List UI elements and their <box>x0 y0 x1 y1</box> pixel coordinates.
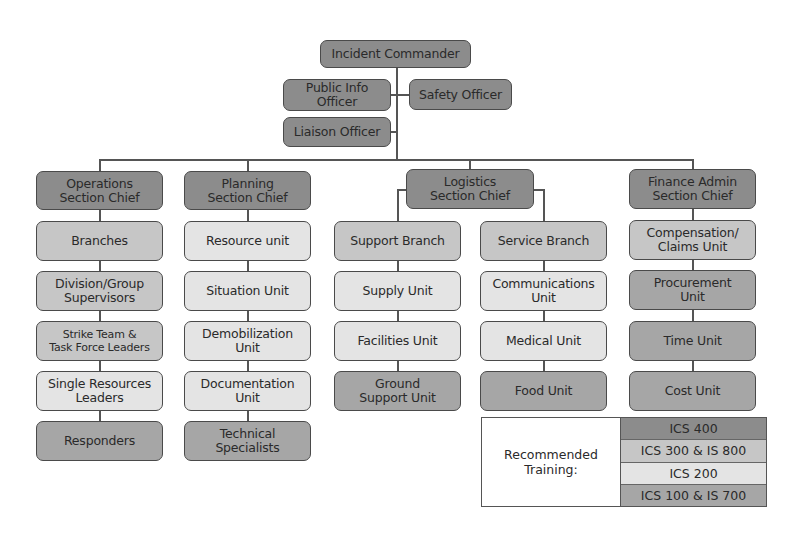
branches-box: Branches <box>36 221 163 261</box>
legend-rows: ICS 400 ICS 300 & IS 800 ICS 200 ICS 100… <box>621 418 766 506</box>
service-branch-box: Service Branch <box>480 221 607 261</box>
technical-specialists-box: Technical Specialists <box>184 421 311 461</box>
connector-line <box>391 131 397 133</box>
connector-line <box>99 159 101 171</box>
operations-section-chief-box: Operations Section Chief <box>36 171 163 210</box>
connector-line <box>391 94 409 96</box>
connector-line <box>247 159 249 171</box>
demobilization-unit-box: Demobilization Unit <box>184 321 311 361</box>
support-branch-box: Support Branch <box>334 221 461 261</box>
medical-unit-box: Medical Unit <box>480 321 607 361</box>
legend-label: Recommended Training: <box>482 418 621 506</box>
cost-unit-box: Cost Unit <box>629 371 756 411</box>
responders-box: Responders <box>36 421 163 461</box>
training-legend: Recommended Training: ICS 400 ICS 300 & … <box>481 417 767 507</box>
compensation-claims-unit-box: Compensation/ Claims Unit <box>629 220 756 260</box>
public-info-officer-box: Public Info Officer <box>283 79 391 111</box>
incident-commander-box: Incident Commander <box>320 40 471 68</box>
liaison-officer-box: Liaison Officer <box>283 117 391 147</box>
documentation-unit-box: Documentation Unit <box>184 371 311 411</box>
legend-item-ics-400: ICS 400 <box>621 418 766 440</box>
strike-team-leaders-box: Strike Team & Task Force Leaders <box>36 321 163 361</box>
legend-item-ics-200: ICS 200 <box>621 463 766 485</box>
connector-line <box>469 159 471 169</box>
logistics-section-chief-box: Logistics Section Chief <box>406 169 534 209</box>
legend-item-ics-100-is-700: ICS 100 & IS 700 <box>621 485 766 506</box>
finance-admin-section-chief-box: Finance Admin Section Chief <box>629 169 756 209</box>
division-group-supervisors-box: Division/Group Supervisors <box>36 271 163 311</box>
connector-line <box>396 68 398 160</box>
facilities-unit-box: Facilities Unit <box>334 321 461 361</box>
food-unit-box: Food Unit <box>480 371 607 411</box>
single-resources-leaders-box: Single Resources Leaders <box>36 371 163 411</box>
situation-unit-box: Situation Unit <box>184 271 311 311</box>
safety-officer-box: Safety Officer <box>409 79 512 110</box>
communications-unit-box: Communications Unit <box>480 271 607 311</box>
time-unit-box: Time Unit <box>629 321 756 361</box>
procurement-unit-box: Procurement Unit <box>629 270 756 310</box>
supply-unit-box: Supply Unit <box>334 271 461 311</box>
ground-support-unit-box: Ground Support Unit <box>334 371 461 411</box>
planning-section-chief-box: Planning Section Chief <box>184 171 311 210</box>
connector-line <box>692 159 694 169</box>
legend-item-ics-300-is-800: ICS 300 & IS 800 <box>621 440 766 462</box>
resource-unit-box: Resource unit <box>184 221 311 261</box>
connector-line <box>99 159 694 161</box>
